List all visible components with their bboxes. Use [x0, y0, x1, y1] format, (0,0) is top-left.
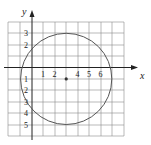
x-tick-2: 2: [53, 70, 57, 79]
coordinate-plane: x y 1 2 4 5 6 3 2 1 2 3 4 5: [0, 0, 151, 145]
y-tick-neg2: 2: [24, 86, 28, 95]
y-axis-arrow-icon: [30, 10, 35, 17]
x-tick-1: 1: [41, 70, 45, 79]
y-tick-2: 2: [24, 41, 28, 50]
x-tick-6: 6: [99, 70, 103, 79]
y-tick-neg4: 4: [24, 109, 28, 118]
y-tick-neg5: 5: [24, 121, 28, 130]
y-axis-label: y: [21, 6, 27, 17]
x-axis-arrow-icon: [131, 65, 138, 70]
x-tick-5: 5: [87, 70, 91, 79]
x-tick-4: 4: [76, 70, 80, 79]
y-tick-neg1: 1: [24, 75, 28, 84]
x-axis-label: x: [139, 70, 145, 81]
center-point: [65, 77, 68, 80]
y-tick-3: 3: [24, 29, 28, 38]
